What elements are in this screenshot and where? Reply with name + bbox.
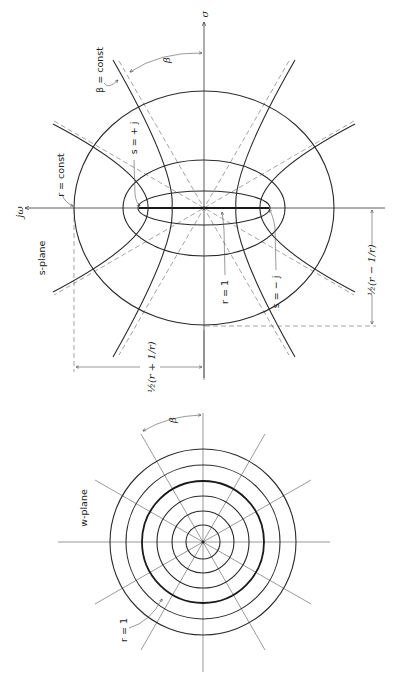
s-plane: β β = const σ jω r = const s-plane s = +…	[14, 9, 385, 392]
w-plane: β w-plane r = 1	[58, 413, 330, 672]
r-const-label: r = const	[55, 153, 66, 197]
jomega-label: jω	[14, 206, 25, 219]
s-minus-j-label: s = − j	[270, 276, 281, 309]
sigma-label: σ	[199, 9, 210, 17]
dim-r-plus-label: ½(r + 1/r)	[146, 341, 157, 393]
dim-r-minus-label: ½(r − 1/r)	[366, 244, 377, 296]
conformal-map-diagram: β β = const σ jω r = const s-plane s = +…	[0, 0, 393, 681]
s-plus-j-label: s = + j	[128, 122, 139, 155]
w-plane-title: w-plane	[78, 489, 89, 527]
w-r1-label: r = 1	[118, 618, 129, 642]
s-r1-label: r = 1	[219, 280, 230, 304]
origin-dot	[202, 206, 205, 209]
w-beta-label: β	[167, 417, 178, 424]
s-plane-title: s-plane	[36, 240, 47, 275]
beta-label: β	[161, 57, 172, 64]
beta-const-label: β = const	[94, 47, 105, 93]
